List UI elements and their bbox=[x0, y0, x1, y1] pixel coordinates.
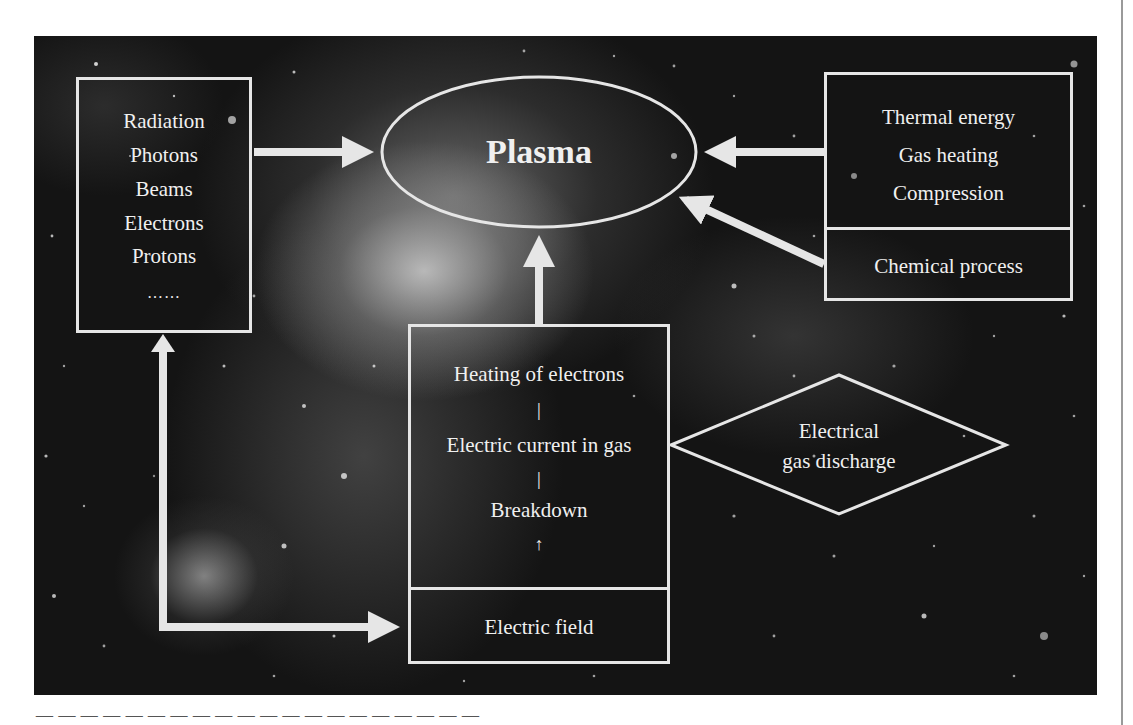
right-item-gas-heating: Gas heating bbox=[824, 142, 1073, 168]
right-box-divider bbox=[824, 227, 1073, 230]
right-item-thermal-energy: Thermal energy bbox=[824, 104, 1073, 130]
step-breakdown: Breakdown bbox=[408, 497, 670, 523]
left-item-electrons: Electrons bbox=[76, 210, 252, 236]
left-item-radiation: Radiation bbox=[76, 108, 252, 134]
step-connector-1: | bbox=[408, 397, 670, 423]
plasma-label: Plasma bbox=[382, 132, 696, 172]
left-item-photons: Photons bbox=[76, 142, 252, 168]
right-item-compression: Compression bbox=[824, 180, 1073, 206]
right-item-chemical-process: Chemical process bbox=[824, 253, 1073, 279]
clipped-caption-line: ▔ ▔ ▔ ▔ ▔ ▔ ▔ ▔ ▔ ▔ ▔ ▔ ▔ ▔ ▔ ▔ ▔ ▔ ▔ ▔ bbox=[0, 716, 1110, 725]
step-heating-of-electrons: Heating of electrons bbox=[408, 361, 670, 387]
diamond-line-1: Electrical bbox=[740, 418, 938, 444]
arrow-chemical-to-plasma bbox=[686, 200, 824, 264]
arrow-up-into-left-box-head bbox=[151, 334, 175, 352]
step-connector-2: | bbox=[408, 466, 670, 492]
left-item-protons: Protons bbox=[76, 243, 252, 269]
center-box-divider bbox=[408, 587, 670, 590]
diamond-line-2: gas discharge bbox=[740, 448, 938, 474]
left-item-beams: Beams bbox=[76, 176, 252, 202]
electric-field-label: Electric field bbox=[408, 614, 670, 640]
left-item-ellipsis: …… bbox=[76, 280, 252, 306]
step-up-arrow: ↑ bbox=[408, 531, 670, 557]
gas-discharge-diamond bbox=[671, 375, 1006, 514]
step-electric-current-in-gas: Electric current in gas bbox=[408, 432, 670, 458]
arrow-field-left-box-path bbox=[163, 350, 392, 627]
